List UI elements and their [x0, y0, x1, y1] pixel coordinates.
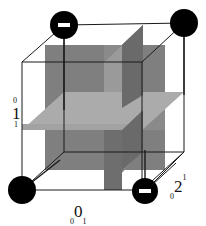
axis-label-bottom-post-subscript: 1 — [83, 217, 87, 226]
axis-label-left-subscript: 1 — [14, 120, 21, 129]
plane-crossing-shade-a — [122, 25, 143, 108]
axis-label-right-main: 2 — [174, 177, 183, 196]
axis-label-bottom: 001 — [70, 203, 87, 223]
axis-label-right: 021 — [170, 178, 187, 198]
node-top-left-minus-icon — [58, 23, 70, 27]
cube-planes-figure: 011 001 021 — [0, 0, 206, 226]
axis-label-left: 011 — [12, 96, 21, 132]
axis-label-right-pre-subscript: 0 — [170, 192, 174, 201]
axis-label-bottom-main: 0 — [74, 202, 83, 221]
axis-label-bottom-pre-subscript: 0 — [70, 217, 74, 226]
plane-vertical-depth-front — [104, 130, 122, 190]
plane-group — [22, 25, 184, 190]
node-bottom-left[interactable] — [8, 176, 36, 204]
node-bottom-right-minus-icon — [139, 189, 151, 193]
axis-label-left-superscript: 0 — [13, 96, 21, 105]
node-top-right[interactable] — [170, 9, 198, 37]
axis-label-right-post-superscript: 1 — [183, 173, 187, 182]
